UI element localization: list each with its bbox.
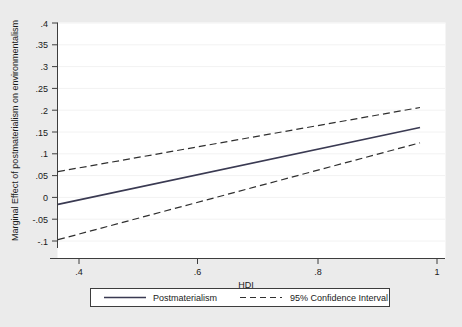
y-tick-label: .15 bbox=[35, 128, 48, 138]
y-tick-label: .1 bbox=[40, 149, 48, 159]
y-tick-label: .4 bbox=[40, 19, 48, 29]
y-tick-label: .3 bbox=[40, 62, 48, 72]
x-tick-label: 1 bbox=[434, 267, 439, 277]
x-tick-label: .8 bbox=[314, 267, 322, 277]
legend-label-postmaterialism: Postmaterialism bbox=[153, 293, 217, 303]
y-tick-label: .35 bbox=[35, 40, 48, 50]
y-tick-label: .25 bbox=[35, 84, 48, 94]
marginal-effect-plot: .4 .35 .3 .25 .2 .15 .1 .05 0 -.05 -.1 M… bbox=[0, 0, 462, 327]
figure-container: .4 .35 .3 .25 .2 .15 .1 .05 0 -.05 -.1 M… bbox=[0, 0, 462, 327]
legend-label-confidence-interval: 95% Confidence Interval bbox=[290, 293, 388, 303]
y-tick-label: -.1 bbox=[37, 237, 48, 247]
x-tick-label: .6 bbox=[194, 267, 202, 277]
legend: Postmaterialism 95% Confidence Interval bbox=[91, 289, 390, 307]
y-tick-label: .05 bbox=[35, 171, 48, 181]
y-tick-label: 0 bbox=[43, 193, 48, 203]
y-tick-label: .2 bbox=[40, 106, 48, 116]
y-tick-label: -.05 bbox=[32, 215, 48, 225]
plot-area-background bbox=[58, 23, 446, 259]
x-tick-label: .4 bbox=[75, 267, 83, 277]
y-axis-title: Marginal Effect of postmaterialism on en… bbox=[10, 20, 20, 241]
